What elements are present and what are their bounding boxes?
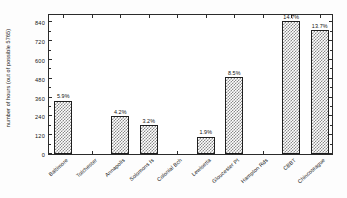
y-tick-label: 480 xyxy=(35,77,45,83)
y-axis-minor-tick-mark xyxy=(49,125,51,126)
x-axis-tick-mark xyxy=(263,15,264,18)
bar xyxy=(54,101,72,154)
y-axis-tick-mark xyxy=(49,134,52,135)
y-axis-tick-mark xyxy=(329,59,332,60)
y-axis-minor-tick-mark xyxy=(49,50,51,51)
bar-value-label: 4.2% xyxy=(114,109,127,115)
y-tick-label: 360 xyxy=(35,96,45,102)
x-tick-label-text: Colonial Bch xyxy=(156,157,183,183)
bar xyxy=(311,30,329,154)
y-tick-label: 600 xyxy=(35,58,45,64)
x-axis-tick-mark xyxy=(120,15,121,18)
y-axis-tick-mark xyxy=(49,97,52,98)
y-axis-title-container: number of hours (out of possible 5765) xyxy=(0,0,16,155)
y-axis-minor-tick-mark xyxy=(49,87,51,88)
x-tick-label-text: Chincoteague xyxy=(296,157,326,185)
y-axis-tick-mark xyxy=(329,21,332,22)
x-axis-tick-mark xyxy=(234,15,235,18)
y-axis-tick-labels: 0120240360480600720840 xyxy=(16,0,47,155)
x-tick-label-text: Lewisetta xyxy=(190,157,212,177)
y-axis-minor-tick-mark xyxy=(330,87,332,88)
x-tick-label-text: Baltimore xyxy=(48,157,70,177)
y-axis-tick-mark xyxy=(49,40,52,41)
x-axis-tick-mark xyxy=(92,151,93,154)
x-tick-label-text: Gloucester Pt xyxy=(211,157,240,184)
y-tick-label: 720 xyxy=(35,39,45,45)
y-tick-label: 0 xyxy=(42,152,45,158)
y-axis-title: number of hours (out of possible 5765) xyxy=(5,28,11,126)
y-axis-tick-mark xyxy=(329,78,332,79)
x-axis-tick-mark xyxy=(177,15,178,18)
x-axis-tick-mark xyxy=(320,15,321,18)
y-axis-tick-mark xyxy=(329,115,332,116)
y-axis-minor-tick-mark xyxy=(330,50,332,51)
y-axis-tick-mark xyxy=(49,21,52,22)
bar-value-label: 5.9% xyxy=(57,93,70,99)
y-axis-tick-mark xyxy=(49,115,52,116)
bar-value-label: 13.7% xyxy=(312,23,328,29)
y-axis-tick-mark xyxy=(329,40,332,41)
y-axis-minor-tick-mark xyxy=(330,125,332,126)
y-axis-minor-tick-mark xyxy=(49,106,51,107)
y-axis-minor-tick-mark xyxy=(330,31,332,32)
y-axis-minor-tick-mark xyxy=(49,31,51,32)
y-axis-tick-mark xyxy=(329,134,332,135)
y-axis-minor-tick-mark xyxy=(330,144,332,145)
y-axis-tick-mark xyxy=(49,59,52,60)
x-tick-label-text: Annapolis xyxy=(104,157,126,178)
y-tick-label: 240 xyxy=(35,114,45,120)
y-axis-minor-tick-mark xyxy=(330,68,332,69)
y-tick-label: 840 xyxy=(35,20,45,26)
bar xyxy=(111,116,129,154)
bar-value-label: 1.9% xyxy=(199,129,212,135)
y-axis-tick-mark xyxy=(49,78,52,79)
y-axis-tick-mark xyxy=(49,153,52,154)
bar-value-label: 14.7% xyxy=(283,14,299,20)
bar-chart: number of hours (out of possible 5765) 0… xyxy=(0,0,347,198)
x-axis-tick-labels: BaltimoreTolchesterAnnapolisSolomons IsC… xyxy=(48,155,333,198)
x-axis-tick-mark xyxy=(206,15,207,18)
bar-value-label: 3.2% xyxy=(142,118,155,124)
x-tick-label-text: Solomons Is xyxy=(128,157,155,182)
y-axis-minor-tick-mark xyxy=(49,144,51,145)
bar xyxy=(140,125,158,154)
x-axis-tick-mark xyxy=(263,151,264,154)
x-tick-label-text: Tolchester xyxy=(75,157,98,179)
x-axis-tick-mark xyxy=(63,15,64,18)
x-axis-tick-mark xyxy=(92,15,93,18)
y-axis-tick-mark xyxy=(329,97,332,98)
x-tick-label-text: CBBT xyxy=(282,157,297,171)
bar-value-label: 8.5% xyxy=(228,70,241,76)
x-axis-tick-mark xyxy=(177,151,178,154)
y-axis-minor-tick-mark xyxy=(49,68,51,69)
y-tick-label: 120 xyxy=(35,133,45,139)
y-axis-minor-tick-mark xyxy=(330,106,332,107)
bar xyxy=(282,21,300,154)
x-axis-tick-mark xyxy=(149,15,150,18)
bar xyxy=(225,77,243,154)
x-tick-label-text: Hampton Rds xyxy=(239,157,268,184)
